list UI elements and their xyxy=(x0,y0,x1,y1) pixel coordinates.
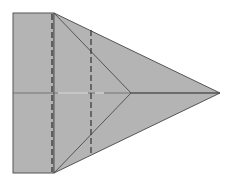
origami-diagram xyxy=(0,0,233,184)
fold-diagram-canvas xyxy=(0,0,233,184)
